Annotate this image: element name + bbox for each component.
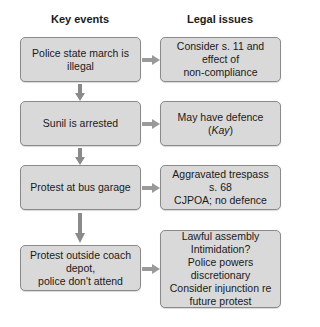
issue-text: Aggravated trespass s. 68CJPOA; no defen… [167, 168, 274, 207]
header-legal-issues: Legal issues [160, 13, 280, 25]
event-box-2: Sunil is arrested [20, 101, 141, 146]
header-key-events: Key events [20, 13, 140, 25]
event-box-3: Protest at bus garage [20, 165, 141, 210]
event-text: Police state march is illegal [27, 47, 134, 73]
arrow-down-icon [75, 148, 85, 165]
issue-box-1: Consider s. 11 and effect ofnon-complian… [160, 37, 281, 82]
event-text: Sunil is arrested [43, 117, 118, 130]
event-box-4: Protest outside coach depot,police don't… [20, 245, 141, 291]
issue-box-2: May have defence (Kay) [160, 101, 281, 146]
issue-text: Consider s. 11 and effect ofnon-complian… [167, 40, 274, 79]
issue-box-4: Lawful assembly Intimidation? Police pow… [160, 230, 281, 308]
arrow-right-icon [142, 119, 160, 129]
issue-box-3: Aggravated trespass s. 68CJPOA; no defen… [160, 165, 281, 210]
event-box-1: Police state march is illegal [20, 37, 141, 82]
issue-text: May have defence (Kay) [167, 111, 274, 137]
event-text: Protest outside coach depot,police don't… [27, 249, 134, 288]
arrow-right-icon [142, 55, 160, 65]
arrow-down-icon [75, 213, 85, 243]
arrow-right-icon [142, 183, 160, 193]
event-text: Protest at bus garage [30, 181, 130, 194]
arrow-down-icon [75, 84, 85, 101]
issue-text: Lawful assembly Intimidation? Police pow… [170, 230, 272, 308]
arrow-right-icon [142, 264, 160, 274]
